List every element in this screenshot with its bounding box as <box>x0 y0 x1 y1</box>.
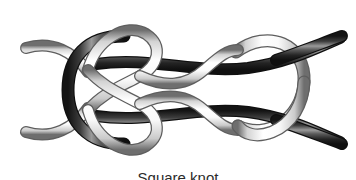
interlocked-rope-knot-illustration <box>0 0 356 180</box>
figure-caption: Square knot <box>0 170 356 180</box>
figure-panel: (b) <box>0 0 356 180</box>
